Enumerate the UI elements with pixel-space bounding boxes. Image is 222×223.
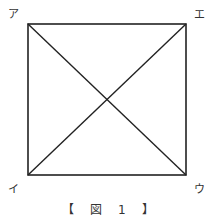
figure-caption: 【 図 1 】 [0, 200, 222, 217]
vertex-label-bottom-left: イ [8, 184, 19, 195]
square-diagram [0, 0, 222, 223]
vertex-label-top-left: ア [8, 9, 19, 20]
vertex-label-bottom-right: ウ [194, 184, 205, 195]
vertex-label-top-right: エ [194, 9, 205, 20]
